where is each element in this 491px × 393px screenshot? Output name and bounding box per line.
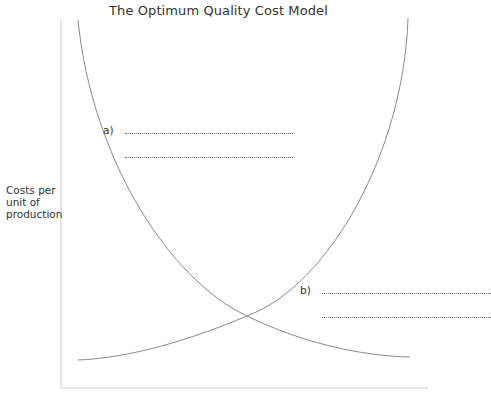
y-axis-label-line: unit of <box>6 196 62 208</box>
falling-cost-curve <box>78 20 410 357</box>
y-axis-label-line: production <box>6 208 62 220</box>
diagram-title: The Optimum Quality Cost Model <box>109 3 328 18</box>
y-axis-label-line: Costs per <box>6 184 62 196</box>
annotation-b-blank-line-2 <box>322 317 491 318</box>
rising-cost-curve <box>78 18 408 360</box>
annotation-a-blank-line-2 <box>125 157 293 158</box>
y-axis-label: Costs per unit of production <box>6 184 62 220</box>
annotation-b-label: b) <box>300 284 311 296</box>
annotation-a-blank-line-1 <box>125 133 293 134</box>
annotation-a-label: a) <box>103 124 114 136</box>
cost-model-plot <box>0 0 491 393</box>
annotation-b-blank-line-1 <box>322 293 491 294</box>
